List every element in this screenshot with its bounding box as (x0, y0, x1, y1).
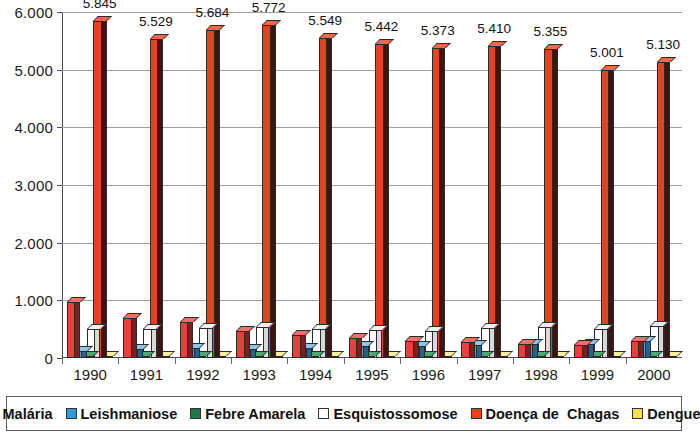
bar (236, 331, 245, 358)
bar-side (307, 348, 312, 358)
legend-label: Dengue (647, 406, 700, 422)
bar-side (278, 356, 283, 358)
bar (405, 341, 414, 358)
bar-side (447, 356, 452, 358)
y-axis-tick-label: 2.000 (14, 234, 62, 251)
x-axis-tick-label: 1995 (355, 366, 388, 383)
x-axis-tick-label: 1992 (186, 366, 219, 383)
bar-value-label: 5.845 (83, 0, 117, 11)
bar-side (433, 331, 438, 358)
bar-side (603, 329, 608, 358)
y-axis-tick-mark (57, 300, 62, 301)
legend-label: Doença de Chagas (486, 406, 620, 422)
x-axis-tick-mark (175, 358, 176, 364)
bar-side (496, 46, 501, 358)
bar-face (319, 38, 328, 358)
x-axis-tick-label: 1990 (73, 366, 106, 383)
x-axis-tick-mark (457, 358, 458, 364)
bar-face (292, 335, 301, 358)
bar-side (301, 335, 306, 358)
bar-side (440, 48, 445, 358)
bar-face (93, 21, 102, 358)
bar (631, 341, 640, 358)
legend-swatch-icon (66, 408, 77, 419)
bar (349, 338, 358, 358)
bar (657, 62, 666, 358)
bar-value-label: 5.130 (646, 37, 680, 52)
bar-face (206, 30, 215, 358)
bar-side (245, 331, 250, 358)
legend-item[interactable]: Febre Amarela (190, 406, 305, 422)
x-axis-tick-mark (344, 358, 345, 364)
x-axis-tick-mark (118, 358, 119, 364)
bar-face (123, 318, 132, 358)
bar-face (375, 44, 384, 358)
bar-side (420, 346, 425, 358)
bar-side (589, 344, 594, 358)
x-axis-tick-label: 1999 (581, 366, 614, 383)
bar-face (236, 331, 245, 358)
bar (461, 342, 470, 358)
bar-side (158, 39, 163, 358)
chart-legend: MaláriaLeishmanioseFebre AmarelaEsquisto… (6, 396, 682, 431)
x-axis-tick-label: 1994 (299, 366, 332, 383)
legend-swatch-icon (190, 408, 201, 419)
bar-value-label: 5.373 (421, 23, 455, 38)
bar (67, 302, 76, 359)
y-axis-tick-mark (57, 127, 62, 128)
bar (601, 70, 610, 358)
x-axis-tick-label: 1991 (130, 366, 163, 383)
x-axis-tick-mark (626, 358, 627, 364)
plot-area: 01.0002.0003.0004.0005.0006.000 19901991… (62, 12, 682, 358)
bar-face (574, 345, 583, 358)
bar-face (180, 322, 189, 358)
bar-side (672, 356, 677, 358)
bar-side (138, 349, 143, 358)
bar-side (195, 348, 200, 358)
bar-side (370, 356, 375, 358)
legend-item[interactable]: Doença de Chagas (471, 406, 620, 422)
bar-side (390, 356, 395, 358)
bar-side (258, 356, 263, 358)
bar-side (427, 356, 432, 358)
bar-side (553, 49, 558, 358)
bar-side (327, 38, 332, 358)
y-axis-tick-mark (57, 12, 62, 13)
bar-value-label: 5.355 (534, 24, 568, 39)
bar-side (364, 346, 369, 358)
bar-side (384, 44, 389, 358)
bar-side (82, 351, 87, 358)
bar (150, 39, 159, 358)
bar-side (95, 329, 100, 358)
legend-label: Esquistossomose (333, 406, 457, 422)
x-axis-tick-label: 1996 (412, 366, 445, 383)
x-axis-tick-label: 1998 (524, 366, 557, 383)
bar-value-label: 5.549 (308, 13, 342, 28)
y-axis-tick-mark (57, 70, 62, 71)
gridline (62, 12, 682, 13)
legend-item[interactable]: Esquistossomose (318, 406, 457, 422)
bar-value-label: 5.529 (139, 14, 173, 29)
bar-face (405, 341, 414, 358)
bar-face (544, 49, 553, 358)
bar-face (432, 48, 441, 358)
bar-face (657, 62, 666, 358)
x-axis-tick-label: 1997 (468, 366, 501, 383)
y-axis-tick-label: 3.000 (14, 177, 62, 194)
bar (206, 30, 215, 358)
bar-side (377, 330, 382, 358)
bar (319, 38, 328, 358)
bar-face (349, 338, 358, 358)
bar-side (477, 345, 482, 358)
x-axis-tick-mark (287, 358, 288, 364)
legend-item[interactable]: Leishmaniose (66, 406, 178, 422)
legend-item[interactable]: Dengue (632, 406, 700, 422)
bar-face (488, 46, 497, 358)
bar-value-label: 5.001 (590, 45, 624, 60)
legend-label: Leishmaniose (81, 406, 178, 422)
bar-side (483, 356, 488, 358)
legend-item[interactable]: Malária (0, 406, 53, 422)
bar-side (503, 356, 508, 358)
bar-side (609, 70, 614, 358)
bar-side (89, 356, 94, 358)
